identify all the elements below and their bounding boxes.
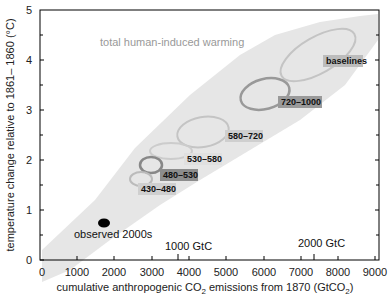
x-ticks: [77, 254, 375, 260]
x-tick-5000: 5000: [214, 266, 238, 278]
x-tick-6000: 6000: [252, 266, 276, 278]
chart: 0 1 2 3 4 5 0 1000 2000 3000 4000 5000 6…: [0, 0, 392, 302]
band-label: total human-induced warming: [100, 36, 244, 48]
y-tick-4: 4: [26, 54, 32, 66]
gtc-2000-label: 2000 GtC: [298, 237, 345, 249]
label-430-480: 430–480: [141, 184, 176, 194]
y-tick-5: 5: [26, 4, 32, 16]
x-tick-0: 0: [39, 266, 45, 278]
x-tick-4000: 4000: [177, 266, 201, 278]
label-480-530: 480–530: [163, 170, 198, 180]
x-tick-2000: 2000: [102, 266, 126, 278]
x-tick-1000: 1000: [65, 266, 89, 278]
label-530-580: 530–580: [187, 154, 222, 164]
y-tick-3: 3: [26, 104, 32, 116]
observed-marker: [98, 219, 110, 228]
gtc-1000-label: 1000 GtC: [165, 240, 212, 252]
x-tick-8000: 8000: [326, 266, 350, 278]
x-tick-7000: 7000: [289, 266, 313, 278]
x-axis-label: cumulative anthropogenic CO2 emissions f…: [57, 281, 354, 296]
label-580-720: 580–720: [228, 131, 263, 141]
x-tick-9000: 9000: [363, 266, 387, 278]
observed-label: observed 2000s: [74, 228, 153, 240]
y-axis-label: temperature change relative to 1861– 186…: [4, 18, 16, 251]
y-tick-1: 1: [26, 204, 32, 216]
y-tick-2: 2: [26, 154, 32, 166]
label-720-1000: 720–1000: [281, 97, 321, 107]
y-tick-0: 0: [26, 254, 32, 266]
label-baselines: baselines: [326, 56, 367, 66]
x-tick-3000: 3000: [140, 266, 164, 278]
